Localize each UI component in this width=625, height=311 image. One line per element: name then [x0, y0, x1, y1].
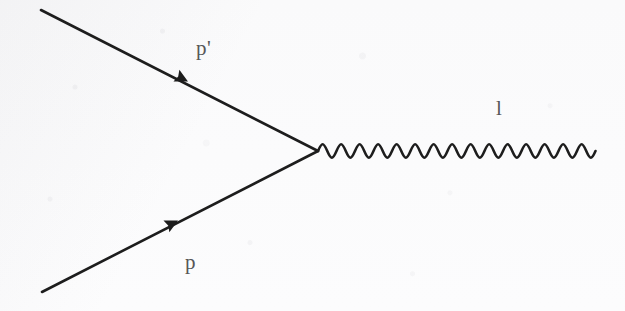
boson-label: l — [496, 98, 502, 119]
incoming-fermion-line — [42, 151, 318, 292]
feynman-diagram-figure: p' p l — [0, 0, 625, 311]
outgoing-fermion-label: p' — [196, 38, 211, 59]
boson-wavy-line — [318, 144, 596, 158]
diagram-canvas — [0, 0, 625, 311]
incoming-fermion-label: p — [185, 252, 196, 273]
